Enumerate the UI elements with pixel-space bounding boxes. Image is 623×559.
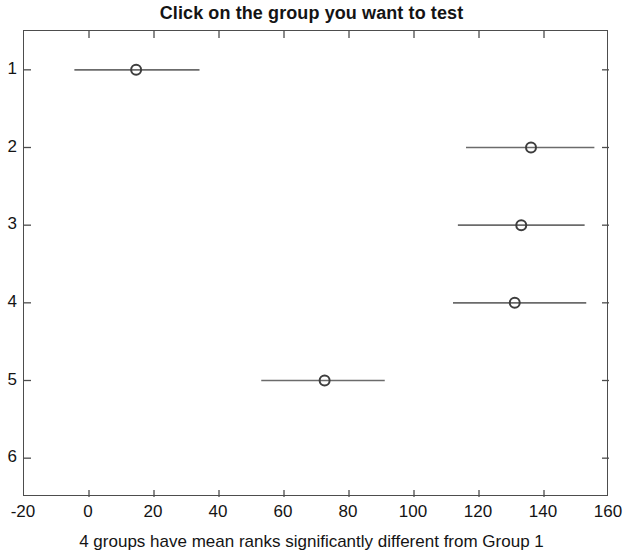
plot-area[interactable] [23,30,608,496]
x-tick-label: -20 [11,501,36,523]
plot-svg [24,31,609,497]
x-tick-label: 140 [529,501,557,523]
multcompare-figure: Click on the group you want to test -200… [0,0,623,559]
x-tick-label: 20 [144,501,163,523]
y-tick-label: 4 [1,292,17,312]
group-row-3[interactable] [458,220,585,230]
x-tick-label: 100 [399,501,427,523]
x-tick-label: 80 [339,501,358,523]
y-tick-label: 5 [1,370,17,390]
y-tick-label: 1 [1,59,17,79]
chart-caption: 4 groups have mean ranks significantly d… [0,530,623,554]
y-tick-label: 2 [1,137,17,157]
x-tick-label: 60 [274,501,293,523]
group-row-4[interactable] [453,298,586,308]
y-tick-label: 3 [1,214,17,234]
group-row-1[interactable] [74,65,199,75]
x-tick-label: 40 [209,501,228,523]
group-row-5[interactable] [261,376,385,386]
group-row-2[interactable] [466,143,594,153]
page-title: Click on the group you want to test [0,0,623,26]
y-tick-label: 6 [1,447,17,467]
x-tick-label: 0 [83,501,92,523]
x-tick-label: 120 [464,501,492,523]
x-tick-label: 160 [594,501,622,523]
